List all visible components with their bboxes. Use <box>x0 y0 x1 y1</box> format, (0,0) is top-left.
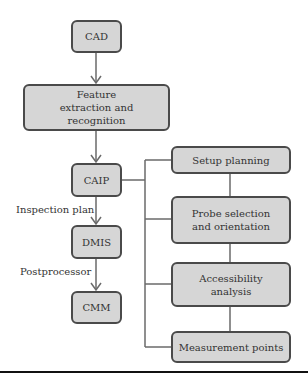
feature-extraction-box: Feature extraction and recognition <box>23 84 170 131</box>
caip-label: CAIP <box>84 174 110 187</box>
probe-selection-label: Probe selection and orientation <box>185 207 277 233</box>
dmis-label: DMIS <box>82 236 111 249</box>
dmis-box: DMIS <box>71 225 122 259</box>
setup-planning-label: Setup planning <box>192 154 269 167</box>
accessibility-analysis-box: Accessibility analysis <box>171 262 291 307</box>
connectors <box>0 0 308 383</box>
accessibility-analysis-label: Accessibility analysis <box>199 272 262 298</box>
inspection-plan-label: Inspection plan <box>16 204 94 215</box>
measurement-points-label: Measurement points <box>179 341 284 354</box>
feature-extraction-label: Feature extraction and recognition <box>55 88 138 127</box>
cad-box: CAD <box>71 20 122 53</box>
cad-label: CAD <box>85 30 108 43</box>
caip-box: CAIP <box>71 163 122 197</box>
bottom-rule <box>0 371 308 373</box>
probe-selection-box: Probe selection and orientation <box>171 196 291 244</box>
setup-planning-box: Setup planning <box>171 146 291 174</box>
postprocessor-label: Postprocessor <box>20 266 91 277</box>
measurement-points-box: Measurement points <box>171 331 291 363</box>
cmm-box: CMM <box>71 291 122 324</box>
cmm-label: CMM <box>82 301 110 314</box>
